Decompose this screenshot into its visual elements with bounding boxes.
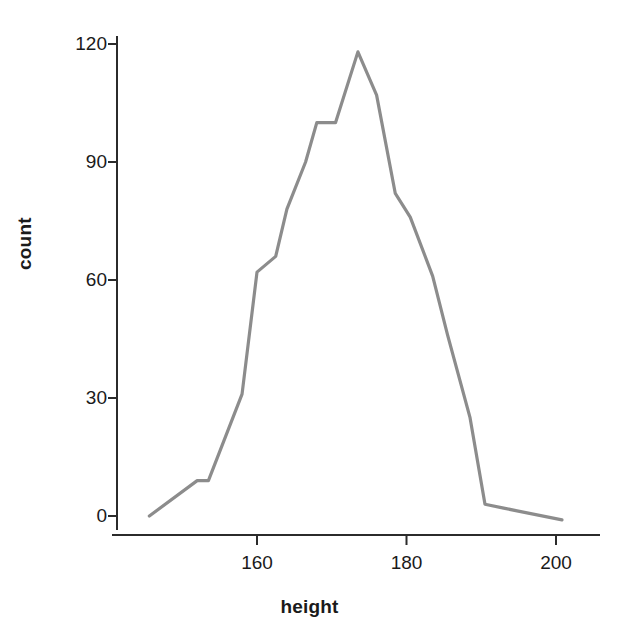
y-tick-label: 0 bbox=[96, 505, 107, 527]
x-tick-marks bbox=[257, 535, 556, 545]
chart-plot-area bbox=[0, 0, 619, 640]
y-tick-label: 30 bbox=[86, 387, 107, 409]
y-tick-marks bbox=[108, 44, 117, 516]
y-tick-label: 60 bbox=[86, 269, 107, 291]
y-tick-label: 90 bbox=[86, 151, 107, 173]
y-tick-label: 120 bbox=[75, 33, 107, 55]
chart-figure: count height 0306090120 160180200 bbox=[0, 0, 619, 640]
axis-lines bbox=[112, 36, 600, 535]
x-tick-label: 200 bbox=[540, 552, 572, 574]
data-series-line bbox=[149, 52, 562, 520]
x-tick-label: 180 bbox=[391, 552, 423, 574]
x-tick-label: 160 bbox=[241, 552, 273, 574]
